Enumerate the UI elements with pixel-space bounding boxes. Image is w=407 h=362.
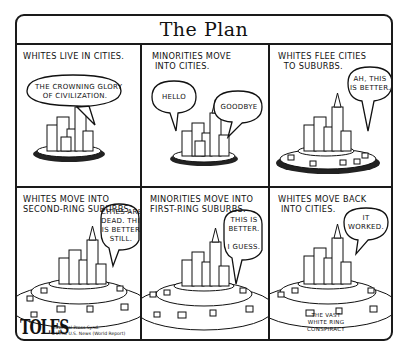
panel-caption: Whites live in cities. xyxy=(23,51,124,61)
panel-caption: Whites move back into cities. xyxy=(278,194,366,214)
speech-bubble-text: This is better. I guess. xyxy=(226,216,262,252)
panel-3: Whites flee cities to suburbs. Ah, this … xyxy=(270,45,391,186)
panel-5: Minorities move into first-ring suburbs.… xyxy=(142,188,268,341)
city-illustration xyxy=(17,45,140,186)
speech-bubble-text: Hello xyxy=(156,93,192,102)
speech-bubble xyxy=(152,81,196,131)
panel-caption: Minorities move into first-ring suburbs. xyxy=(150,194,253,214)
speech-bubble-text: Ah, this is better. xyxy=(350,75,390,93)
panel-caption: Whites flee cities to suburbs. xyxy=(278,51,366,71)
speech-bubble-text: It worked. xyxy=(346,214,386,232)
speech-bubble-text: Cities are dead. This is better still. xyxy=(101,208,140,244)
panel-caption: Minorities move into cities. xyxy=(152,51,231,71)
comic-frame: The Plan Whites live in cities. The crow… xyxy=(15,14,393,341)
comic-title: The Plan xyxy=(17,16,391,45)
panel-4: Whites move into second-ring suburbs. Ci… xyxy=(17,188,140,341)
copyright-credit: Universal Press Synd. ©1998 U.S. News (W… xyxy=(51,325,125,337)
speech-bubble-text: The crowning glory of civilization. xyxy=(35,83,115,101)
panel-2: Minorities move into cities. Hello Goodb… xyxy=(142,45,268,186)
speech-bubble-text: Goodbye xyxy=(218,103,260,112)
panel-1: Whites live in cities. The crowning glor… xyxy=(17,45,140,186)
panel-6: Whites move back into cities. It worked.… xyxy=(270,188,391,341)
footnote-text: The vast white ring conspiracy xyxy=(296,312,356,333)
